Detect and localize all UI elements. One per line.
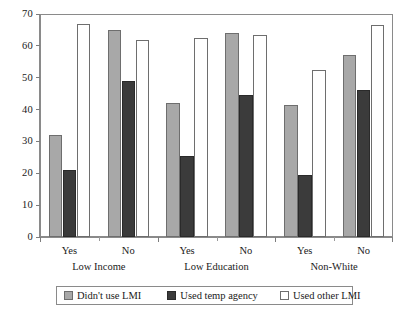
- y-axis: 010203040506070: [0, 0, 40, 311]
- y-axis-tick: 60: [0, 40, 40, 52]
- y-axis-tick: 70: [0, 8, 40, 20]
- bar-used-other-lmi: [312, 70, 326, 237]
- bar-used-temp-agency: [63, 170, 77, 237]
- y-axis-tick: 20: [0, 167, 40, 179]
- y-axis-tick-label: 40: [22, 104, 33, 116]
- bar-used-temp-agency: [122, 81, 136, 237]
- x-axis-minor-tick: [217, 237, 218, 241]
- white-swatch: [280, 291, 289, 300]
- bar-used-temp-agency: [357, 90, 371, 237]
- y-axis-tick-label: 70: [22, 8, 33, 20]
- legend-item-label: Used temp agency: [180, 290, 258, 302]
- y-axis-tick-label: 10: [22, 199, 33, 211]
- bar-didn-t-use-lmi: [49, 135, 63, 237]
- x-axis-sublabel: Yes: [158, 244, 217, 257]
- bars-layer: [40, 14, 393, 237]
- y-axis-tick-label: 50: [22, 72, 33, 84]
- x-axis-group-divider: [40, 237, 41, 242]
- bar-used-other-lmi: [194, 38, 208, 237]
- x-axis-group-divider: [392, 237, 393, 242]
- legend-item-label: Used other LMI: [293, 290, 361, 302]
- y-axis-tick: 10: [0, 199, 40, 211]
- x-axis-sublabel: No: [334, 244, 393, 257]
- legend-item[interactable]: Didn't use LMI: [64, 287, 141, 304]
- x-axis-minor-tick: [99, 237, 100, 241]
- y-axis-tick: 50: [0, 72, 40, 84]
- light-gray-swatch: [64, 291, 73, 300]
- legend-item[interactable]: Used other LMI: [280, 287, 361, 304]
- y-axis-tick: 30: [0, 135, 40, 147]
- dark-gray-swatch: [167, 291, 176, 300]
- y-axis-tick: 40: [0, 104, 40, 116]
- x-axis-sublabel: No: [217, 244, 276, 257]
- y-axis-tick-label: 0: [28, 231, 33, 243]
- x-axis-sublabel: Yes: [40, 244, 99, 257]
- bar-used-temp-agency: [239, 95, 253, 237]
- bar-used-other-lmi: [136, 40, 150, 238]
- y-axis-tick: 0: [0, 231, 40, 243]
- x-axis-group-divider: [158, 237, 159, 242]
- x-axis-sublabel: Yes: [275, 244, 334, 257]
- y-axis-tick-label: 20: [22, 167, 33, 179]
- bar-didn-t-use-lmi: [108, 30, 122, 237]
- bar-used-other-lmi: [253, 35, 267, 237]
- bar-used-temp-agency: [180, 156, 194, 237]
- x-axis-minor-tick: [334, 237, 335, 241]
- y-axis-tick-label: 60: [22, 40, 33, 52]
- x-axis-sublabel: No: [99, 244, 158, 257]
- legend-item[interactable]: Used temp agency: [167, 287, 258, 304]
- x-axis-group-label: Non-White: [275, 260, 393, 273]
- bar-used-temp-agency: [298, 175, 312, 237]
- bar-used-other-lmi: [371, 25, 385, 237]
- chart-legend: Didn't use LMIUsed temp agencyUsed other…: [56, 286, 353, 305]
- bar-didn-t-use-lmi: [284, 105, 298, 237]
- x-axis-group-label: Low Education: [158, 260, 276, 273]
- bar-used-other-lmi: [77, 24, 91, 237]
- x-axis-group-divider: [275, 237, 276, 242]
- bar-didn-t-use-lmi: [166, 103, 180, 237]
- bar-didn-t-use-lmi: [225, 33, 239, 237]
- legend-item-label: Didn't use LMI: [77, 290, 141, 302]
- bar-didn-t-use-lmi: [343, 55, 357, 237]
- y-axis-tick-label: 30: [22, 135, 33, 147]
- bar-chart: 010203040506070 YesNoLow IncomeYesNoLow …: [0, 0, 407, 311]
- x-axis-group-label: Low Income: [40, 260, 158, 273]
